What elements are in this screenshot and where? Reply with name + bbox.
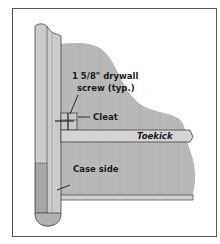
cleat-label: Cleat <box>93 112 118 122</box>
case-side-dark-segment <box>36 163 48 213</box>
case-side-panel <box>35 24 61 226</box>
toekick-board <box>61 130 193 142</box>
cabinet-detail-diagram: 1 5/8" drywall screw (typ.) Cleat Toekic… <box>0 0 220 244</box>
bottom-board <box>60 195 193 200</box>
screw-label-line1: 1 5/8" drywall <box>72 71 139 81</box>
screw-label-line2: screw (typ.) <box>77 83 135 93</box>
toekick-label: Toekick <box>137 131 174 141</box>
case-side-label: Case side <box>73 164 119 174</box>
